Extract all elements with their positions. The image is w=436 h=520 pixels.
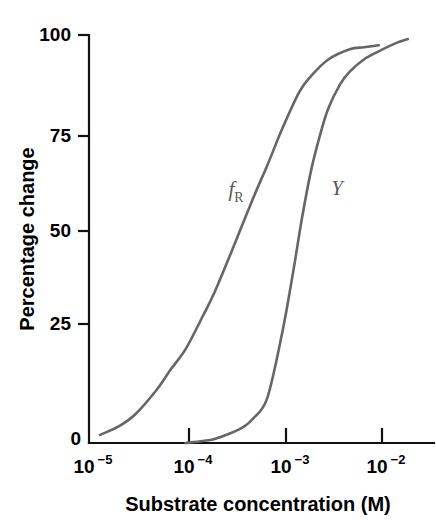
series-label-y: Y [331, 176, 345, 200]
x-tick-label-1e-5: 10 −5 [73, 452, 112, 477]
x-tick-label-1e-2-exp: −2 [391, 452, 406, 467]
x-tick-label-1e-3: 10 −3 [270, 452, 309, 477]
y-tick-label-75: 75 [50, 125, 72, 146]
series-curve-fr [100, 45, 379, 435]
axes-group [89, 35, 434, 443]
series-label-fr-sub: R [234, 190, 244, 205]
x-tick-labels-group: 10 −5 10 −4 10 −3 10 −2 [73, 452, 405, 477]
chart-svg: 100 75 50 25 0 10 −5 10 −4 10 −3 [0, 0, 436, 520]
series-group [100, 39, 408, 443]
x-tick-label-1e-2: 10 −2 [366, 452, 405, 477]
x-tick-label-1e-4-exp: −4 [198, 452, 214, 467]
chart-figure: 100 75 50 25 0 10 −5 10 −4 10 −3 [0, 0, 436, 520]
series-label-fr: fR [228, 177, 244, 205]
y-ticks-group [78, 35, 89, 324]
y-axis-title: Percentage change [16, 147, 38, 330]
series-labels-group: fR Y [228, 176, 345, 205]
x-tick-label-1e-3-base: 10 [270, 456, 291, 477]
x-tick-label-1e-5-base: 10 [73, 456, 94, 477]
y-tick-label-100: 100 [39, 24, 71, 45]
x-tick-label-1e-5-exp: −5 [98, 452, 113, 467]
x-tick-label-1e-4: 10 −4 [173, 452, 213, 477]
y-tick-label-0: 0 [70, 428, 81, 449]
x-tick-label-1e-3-exp: −3 [295, 452, 310, 467]
x-ticks-group [189, 428, 382, 443]
x-tick-label-1e-4-base: 10 [173, 456, 194, 477]
y-tick-labels-group: 100 75 50 25 0 [39, 24, 81, 449]
x-tick-label-1e-2-base: 10 [366, 456, 387, 477]
y-tick-label-25: 25 [50, 313, 72, 334]
y-tick-label-50: 50 [50, 220, 71, 241]
x-axis-title: Substrate concentration (M) [125, 493, 391, 515]
